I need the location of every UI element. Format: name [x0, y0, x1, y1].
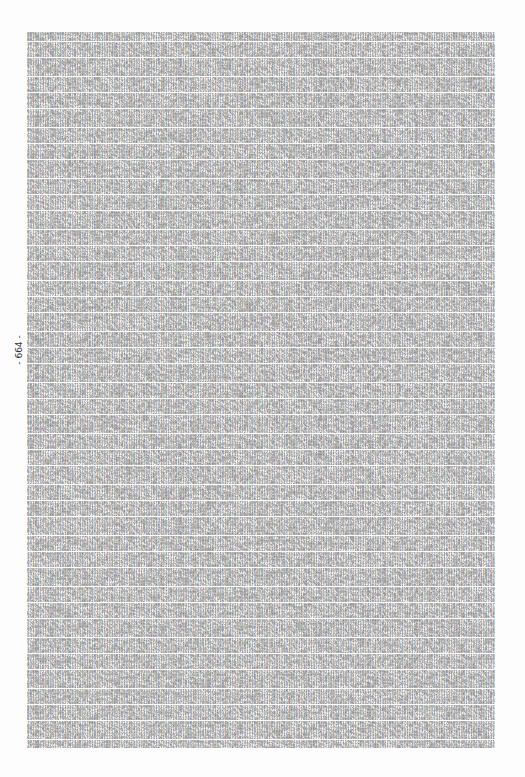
page-number: - 664 - [14, 333, 24, 366]
digit-text-block: 0896335668926084329984933214006108543245… [27, 32, 501, 748]
document-page: 0896335668926084329984933214006108543245… [0, 0, 525, 777]
